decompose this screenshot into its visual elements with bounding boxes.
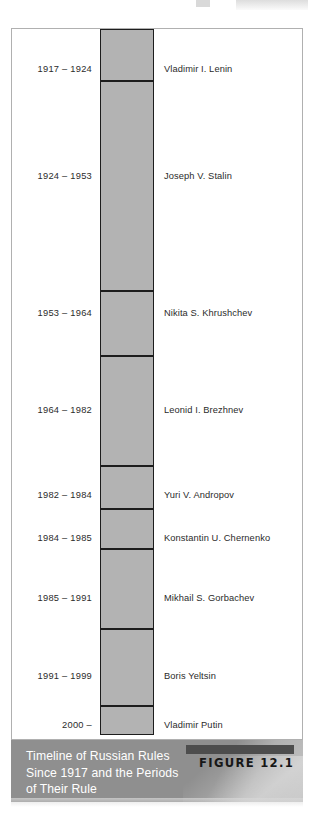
timeline-years-label: 1964 – 1982 <box>12 403 92 417</box>
timeline-years-label: 1953 – 1964 <box>12 306 92 320</box>
figure-caption-bar: Timeline of Russian Rules Since 1917 and… <box>11 740 303 802</box>
timeline-row: 1917 – 1924Vladimir I. Lenin <box>12 62 302 76</box>
timeline-bar-column <box>100 29 154 735</box>
timeline-years-label: 1984 – 1985 <box>12 531 92 545</box>
timeline-years-label: 1924 – 1953 <box>12 169 92 183</box>
timeline-row: 1984 – 1985Konstantin U. Chernenko <box>12 531 302 545</box>
timeline-leader-name: Boris Yeltsin <box>164 669 216 683</box>
timeline-row: 1953 – 1964Nikita S. Khrushchev <box>12 306 302 320</box>
timeline-years-label: 2000 – <box>12 718 92 732</box>
timeline-segment <box>100 549 154 629</box>
timeline-segment <box>100 81 154 291</box>
timeline-leader-name: Nikita S. Khrushchev <box>164 306 252 320</box>
timeline-leader-name: Leonid I. Brezhnev <box>164 403 243 417</box>
timeline-leader-name: Vladimir Putin <box>164 718 223 732</box>
timeline-row: 1924 – 1953Joseph V. Stalin <box>12 169 302 183</box>
figure-label-tab <box>186 745 294 754</box>
timeline-leader-name: Mikhail S. Gorbachev <box>164 591 254 605</box>
timeline-years-label: 1917 – 1924 <box>12 62 92 76</box>
timeline-row: 1991 – 1999Boris Yeltsin <box>12 669 302 683</box>
timeline-row: 1985 – 1991Mikhail S. Gorbachev <box>12 591 302 605</box>
caption-line-3: of Their Rule <box>26 781 216 798</box>
timeline-years-label: 1991 – 1999 <box>12 669 92 683</box>
timeline-leader-name: Joseph V. Stalin <box>164 169 232 183</box>
timeline-row: 1964 – 1982Leonid I. Brezhnev <box>12 403 302 417</box>
timeline-segment <box>100 291 154 356</box>
figure-number-label: FIGURE 12.1 <box>186 756 294 770</box>
timeline-row: 2000 –Vladimir Putin <box>12 718 302 732</box>
timeline-years-label: 1985 – 1991 <box>12 591 92 605</box>
timeline-leader-name: Konstantin U. Chernenko <box>164 531 270 545</box>
timeline-years-label: 1982 – 1984 <box>12 488 92 502</box>
timeline-leader-name: Yuri V. Andropov <box>164 488 234 502</box>
page-bottom-fade <box>11 798 303 807</box>
timeline-row: 1982 – 1984Yuri V. Andropov <box>12 488 302 502</box>
figure-frame: 1917 – 1924Vladimir I. Lenin1924 – 1953J… <box>11 28 303 740</box>
timeline-segment <box>100 629 154 706</box>
timeline-leader-name: Vladimir I. Lenin <box>164 62 232 76</box>
scan-artifact-light <box>236 0 308 10</box>
scan-artifact-dark <box>196 0 210 7</box>
